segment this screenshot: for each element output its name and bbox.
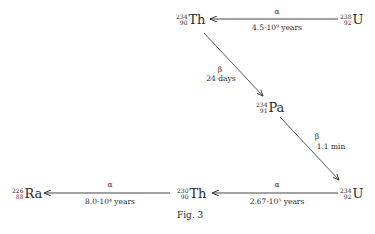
node-u238: 23892 U: [340, 13, 363, 26]
node-th230: 23090 Th: [177, 187, 207, 200]
element-symbol: Th: [189, 187, 206, 200]
node-u234: 23492 U: [340, 187, 363, 200]
decay-type-label: α: [95, 181, 125, 189]
half-life-label: 24 days: [203, 75, 239, 83]
element-symbol: U: [352, 13, 363, 26]
element-symbol: U: [352, 187, 363, 200]
element-symbol: Ra: [24, 187, 42, 200]
half-life-label: 2.67·10⁵ years: [232, 198, 322, 206]
atomic-number: 90: [180, 20, 188, 26]
node-ra226: 22688 Ra: [12, 187, 42, 200]
atomic-number: 90: [181, 194, 189, 200]
atomic-number: 92: [344, 194, 352, 200]
atomic-number: 88: [16, 194, 24, 200]
decay-type-label: α: [262, 8, 292, 16]
element-symbol: Th: [188, 13, 205, 26]
node-th234: 23490 Th: [176, 13, 206, 26]
decay-type-label: β: [210, 66, 230, 74]
half-life-label: 4.5·10⁹ years: [237, 24, 317, 32]
node-pa234: 23491 Pa: [256, 101, 284, 114]
atomic-number: 91: [260, 108, 268, 114]
half-life-label: 8.0·10⁴ years: [70, 198, 150, 206]
decay-type-label: α: [262, 181, 292, 189]
half-life-label: 1.1 min: [313, 143, 349, 151]
atomic-number: 92: [344, 20, 352, 26]
figure-caption: Fig. 3: [177, 210, 203, 220]
decay-type-label: β: [312, 133, 322, 141]
element-symbol: Pa: [268, 101, 284, 114]
